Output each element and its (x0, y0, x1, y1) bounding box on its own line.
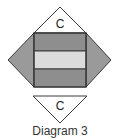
square-bottom-stripe (34, 69, 86, 87)
diagram-caption: Diagram 3 (0, 124, 117, 138)
square-middle-stripe (34, 51, 86, 69)
right-triangle (86, 33, 111, 87)
left-triangle (8, 33, 34, 87)
top-triangle-label: C (56, 17, 65, 31)
diagram-canvas: C C (0, 0, 117, 140)
square-top-stripe (34, 33, 86, 51)
bottom-triangle-label: C (56, 99, 65, 113)
